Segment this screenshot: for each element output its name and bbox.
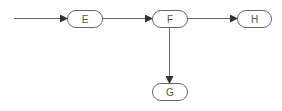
node-h[interactable]: H	[238, 11, 272, 28]
node-e-label: E	[82, 14, 89, 25]
node-e[interactable]: E	[68, 11, 103, 28]
node-f-label: F	[167, 14, 173, 25]
node-g-label: G	[166, 87, 174, 98]
node-g[interactable]: G	[153, 84, 188, 101]
node-f[interactable]: F	[153, 11, 188, 28]
flow-diagram: E F H G	[0, 0, 282, 111]
node-h-label: H	[251, 14, 258, 25]
